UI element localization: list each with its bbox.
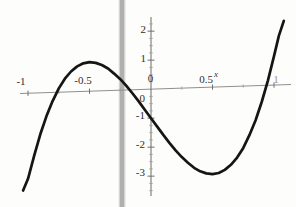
x-tick-label-neg-0-5: -0.5 — [74, 74, 92, 86]
gray-vertical-line — [120, 0, 125, 207]
plot-figure: -1 -0.5 0 0.5 1 x 2 1 0 -1 -2 -3 — [0, 0, 296, 207]
x-tick-label-0-5: 0.5 — [199, 73, 213, 85]
y-origin-label: 0 — [140, 92, 146, 104]
x-tick-label-1: 1 — [273, 73, 279, 85]
y-tick-label-neg-3: -3 — [136, 166, 146, 178]
x-axis-variable-label: x — [213, 69, 218, 79]
y-tick-label-2: 2 — [141, 23, 147, 35]
y-tick-label-neg-2: -2 — [136, 138, 145, 150]
x-tick-label-neg-1: -1 — [16, 75, 25, 87]
y-tick-label-neg-1: -1 — [136, 109, 145, 121]
y-tick-label-1: 1 — [141, 52, 147, 64]
function-curve — [23, 21, 284, 191]
x-origin-label: 0 — [148, 72, 154, 84]
plot-canvas: -1 -0.5 0 0.5 1 x 2 1 0 -1 -2 -3 — [0, 0, 296, 207]
